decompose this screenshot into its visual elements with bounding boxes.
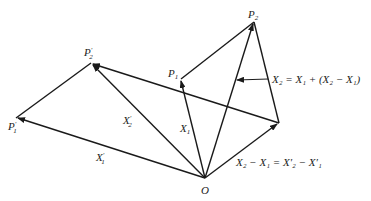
label-equation-x2: X₂ = X₁ + (X₂ − X₁) xyxy=(271,73,361,86)
segment-p1-p2 xyxy=(181,22,254,79)
label-p1-prime: P′1 xyxy=(7,120,17,135)
label-p1: P1 xyxy=(167,67,178,81)
label-x1: X1 xyxy=(179,122,190,136)
label-equation-difference: X₂ − X₁ = X′₂ − X′₁ xyxy=(235,156,322,168)
vector-diagram: O P′1 P′2 P1 P2 X′1 X′2 X1 X₂ = X₁ + (X₂… xyxy=(0,0,371,201)
label-x2-prime: X′2 xyxy=(122,114,132,129)
annotation-arrow xyxy=(237,79,268,80)
vector-x2-minus-x1 xyxy=(205,124,277,178)
label-x1-prime: X′1 xyxy=(95,151,105,166)
vector-x1-prime xyxy=(18,118,205,178)
segment-p1p-p2p xyxy=(16,63,91,118)
label-p2-prime: P′2 xyxy=(83,46,93,61)
label-o: O xyxy=(201,184,209,196)
label-p2: P2 xyxy=(247,8,259,22)
vector-x2 xyxy=(205,24,253,178)
